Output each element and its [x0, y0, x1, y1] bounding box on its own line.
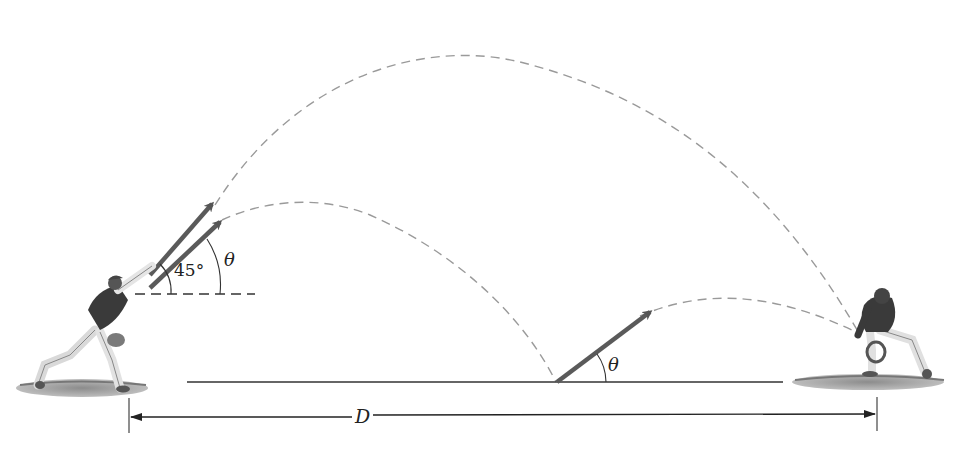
trajectory-bounce-first — [222, 202, 556, 382]
angle-label-45: 45° — [174, 260, 204, 280]
distance-label: D — [355, 405, 370, 427]
dimension-d — [129, 397, 877, 433]
diagram-canvas: 45° θ θ D — [0, 0, 956, 455]
catcher-figure — [792, 288, 944, 390]
angle-arc-theta-lower — [597, 354, 606, 382]
trajectory-bounce-second — [640, 298, 858, 333]
trajectory-direct — [215, 55, 860, 335]
velocity-arrow-bounce — [557, 312, 650, 382]
thrower-figure — [16, 266, 152, 397]
angle-arc-theta-upper — [207, 239, 220, 294]
angle-label-theta-upper: θ — [224, 249, 235, 270]
angle-label-theta-lower: θ — [608, 354, 619, 375]
